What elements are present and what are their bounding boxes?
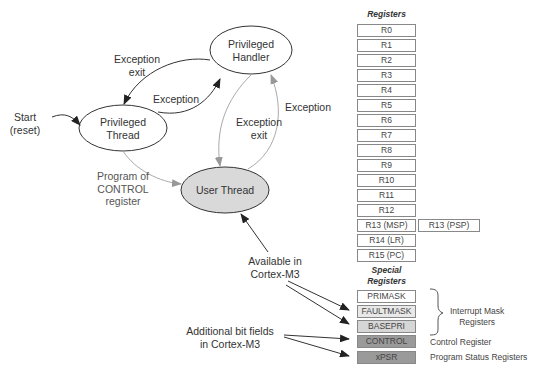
arrow-additional-control [284,335,349,339]
register-r7: R7 [357,129,416,142]
register-r1: R1 [357,39,416,52]
label-line: Special [357,265,416,276]
label-line: Thread [93,129,153,142]
label-line: Cortex-M3 [240,268,310,281]
label-line: Registers [357,276,416,287]
exception-top-label: Exception [148,93,204,106]
label-line: Registers [450,317,504,328]
start-label: Start (reset) [5,111,45,136]
privileged-handler-label: Privileged Handler [221,38,281,63]
privileged-thread-label: Privileged Thread [93,116,153,141]
label-line: Program of [93,170,153,183]
register-r9: R9 [357,159,416,172]
register-basepri: BASEPRI [357,320,416,333]
label-line: Handler [221,51,281,64]
additional-bit-fields-label: Additional bit fields in Cortex-M3 [180,325,280,350]
interrupt-mask-brace [430,289,443,335]
arrow-additional-xpsr [284,337,349,356]
program-status-label: Program Status Registers [430,352,527,363]
register-r14-lr: R14 (LR) [357,234,416,247]
label-line: register [93,195,153,208]
arrow-available-basepri [286,285,349,324]
registers-header: Registers [357,9,416,20]
interrupt-mask-label: Interrupt Mask Registers [450,306,504,328]
arrow-start [52,115,80,125]
register-faultmask: FAULTMASK [357,305,416,318]
register-r10: R10 [357,174,416,187]
register-primask: PRIMASK [357,290,416,303]
label-line: Additional bit fields [180,325,280,338]
label-line: Interrupt Mask [450,306,504,317]
control-register-label: Control Register [430,337,491,348]
register-r13-psp: R13 (PSP) [418,219,480,232]
register-r15-pc: R15 (PC) [357,249,416,262]
label-line: Exception [108,53,166,66]
label-line: Available in [240,255,310,268]
label-line: exit [108,66,166,79]
label-line: exit [230,129,288,142]
program-control-label: Program of CONTROL register [93,170,153,208]
label-line: Privileged [93,116,153,129]
label-line: Privileged [221,38,281,51]
register-r6: R6 [357,114,416,127]
exception-right-label: Exception [280,101,336,114]
register-r4: R4 [357,84,416,97]
arrow-available-user-thread [241,214,268,252]
register-r12: R12 [357,204,416,217]
label-line: Exception [230,116,288,129]
register-r11: R11 [357,189,416,202]
register-r8: R8 [357,144,416,157]
exception-exit-top-label: Exception exit [108,53,166,78]
register-r13-msp: R13 (MSP) [357,219,416,232]
label-line: (reset) [5,124,45,137]
label-line: Start [5,111,45,124]
register-xpsr: xPSR [357,351,416,364]
exception-exit-mid-label: Exception exit [230,116,288,141]
special-registers-header: Special Registers [357,265,416,287]
register-r3: R3 [357,69,416,82]
user-thread-label: User Thread [190,184,260,197]
available-in-label: Available in Cortex-M3 [240,255,310,280]
label-line: CONTROL [93,183,153,196]
register-r0: R0 [357,24,416,37]
label-line: in Cortex-M3 [180,338,280,351]
register-r2: R2 [357,54,416,67]
register-r5: R5 [357,99,416,112]
register-control: CONTROL [357,335,416,348]
